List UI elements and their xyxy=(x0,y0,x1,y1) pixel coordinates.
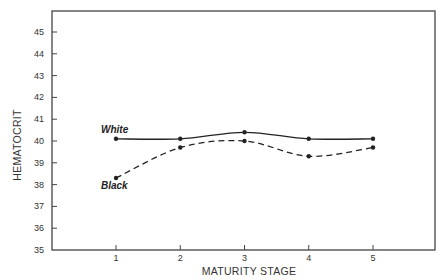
x-tick-label: 3 xyxy=(242,253,247,263)
x-tick-label: 5 xyxy=(370,253,375,263)
x-axis-title: MATURITY STAGE xyxy=(202,265,297,277)
data-point xyxy=(371,145,375,149)
x-tick-label: 1 xyxy=(113,253,118,263)
series-black: Black xyxy=(101,139,375,191)
x-tick-label: 4 xyxy=(306,253,311,263)
y-tick-label: 36 xyxy=(34,223,44,233)
y-tick-label: 39 xyxy=(34,158,44,168)
y-tick-label: 37 xyxy=(34,201,44,211)
y-tick-label: 40 xyxy=(34,136,44,146)
data-point xyxy=(307,154,311,158)
y-tick-label: 45 xyxy=(34,27,44,37)
data-point xyxy=(242,139,246,143)
y-tick-label: 35 xyxy=(34,245,44,255)
y-axis-title: HEMATOCRIT xyxy=(11,109,23,181)
y-tick-label: 38 xyxy=(34,180,44,190)
y-tick-label: 43 xyxy=(34,71,44,81)
series-layer: WhiteBlack xyxy=(101,124,375,191)
y-tick-label: 41 xyxy=(34,114,44,124)
x-tick-label: 2 xyxy=(178,253,183,263)
y-axis: 3536373839404142434445 xyxy=(34,27,57,255)
data-point xyxy=(371,137,375,141)
y-tick-label: 42 xyxy=(34,92,44,102)
series-label-black: Black xyxy=(101,180,128,191)
data-point xyxy=(114,137,118,141)
series-line-black xyxy=(116,141,373,179)
data-point xyxy=(307,137,311,141)
data-point xyxy=(242,130,246,134)
x-axis: 12345 xyxy=(113,245,375,263)
data-point xyxy=(178,145,182,149)
data-point xyxy=(178,137,182,141)
y-tick-label: 44 xyxy=(34,49,44,59)
series-label-white: White xyxy=(101,124,129,135)
line-chart: 3536373839404142434445 12345 WhiteBlack … xyxy=(0,0,445,280)
series-white: White xyxy=(101,124,375,141)
